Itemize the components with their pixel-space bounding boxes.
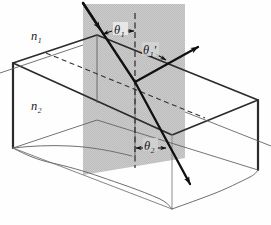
label-theta1-prime: θ₁′ (143, 43, 156, 57)
label-theta2: θ₂ (144, 139, 155, 153)
label-n2: n₂ (31, 99, 42, 113)
label-theta1: θ₁ (114, 23, 125, 37)
figure-canvas: n₁ n₂ θ₁ θ₁′ θ₂ (0, 0, 271, 225)
label-n1: n₁ (31, 29, 42, 43)
optics-diagram-svg: n₁ n₂ θ₁ θ₁′ θ₂ (0, 0, 271, 225)
